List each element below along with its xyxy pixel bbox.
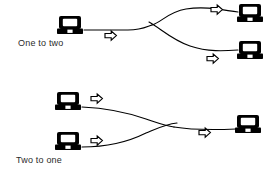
panel-caption-two-to-one: Two to one bbox=[16, 155, 62, 165]
computer-icon-destination-top bbox=[237, 4, 263, 22]
panel-caption-one-to-two: One to two bbox=[18, 38, 64, 48]
flow-arrow-right-icon-branch-bottom bbox=[207, 54, 218, 63]
link-split-to-destination-bottom bbox=[149, 22, 238, 51]
computer-icon-source-bottom bbox=[55, 132, 81, 150]
panel-one-to-two bbox=[57, 4, 263, 63]
link-source-top-to-merge bbox=[82, 107, 174, 127]
panel-two-to-one bbox=[55, 92, 261, 150]
computer-icon-destination-single bbox=[235, 115, 261, 133]
computer-icon-destination-bottom bbox=[237, 41, 263, 59]
link-source-bottom-to-merge bbox=[82, 123, 177, 147]
link-group-two-to-one bbox=[82, 107, 236, 147]
network-topology-diagram bbox=[0, 0, 272, 172]
computer-icon-source-top bbox=[55, 92, 81, 110]
computer-icon-source-1 bbox=[57, 16, 83, 34]
flow-arrow-right-icon-source-top bbox=[91, 94, 102, 103]
flow-arrow-right-icon-branch-top bbox=[211, 5, 222, 14]
link-source-to-split bbox=[84, 25, 152, 30]
flow-arrow-right-icon-source bbox=[105, 31, 116, 40]
link-group-one-to-two bbox=[84, 8, 238, 51]
flow-arrow-right-icon-source-bottom bbox=[91, 136, 102, 145]
link-split-to-destination-top bbox=[152, 8, 238, 25]
